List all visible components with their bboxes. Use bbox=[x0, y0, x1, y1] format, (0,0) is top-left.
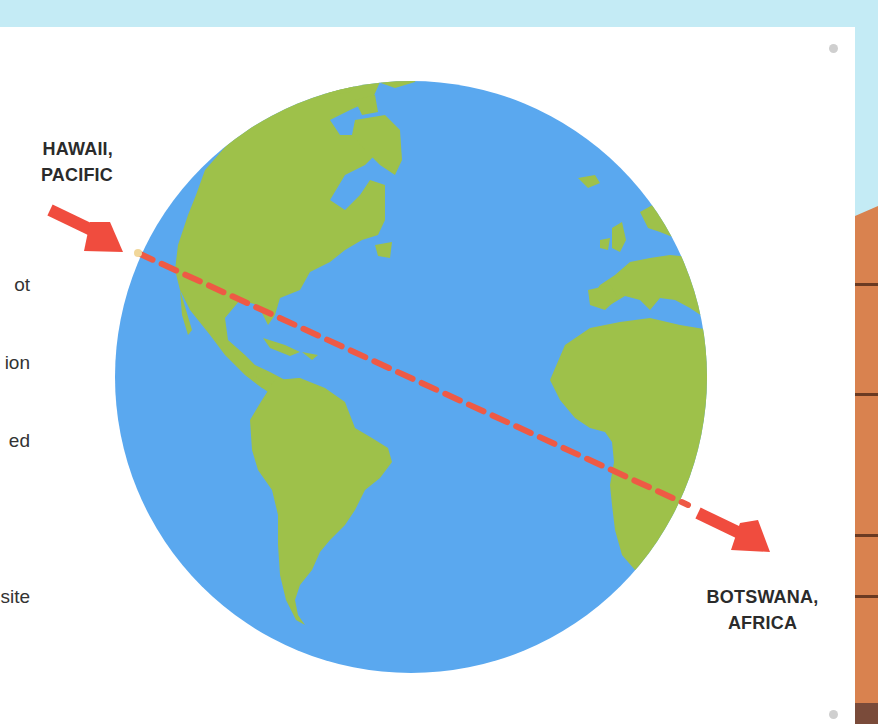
arrow-icon-hawaii bbox=[50, 210, 123, 252]
entry-point-marker bbox=[134, 249, 142, 257]
label-line: AFRICA bbox=[680, 610, 845, 636]
illustration-page: ot ion ed site bbox=[0, 0, 878, 724]
arrow-icon-botswana bbox=[698, 513, 770, 552]
label-hawaii-pacific: HAWAII, PACIFIC bbox=[0, 136, 113, 188]
label-botswana-africa: BOTSWANA, AFRICA bbox=[680, 584, 845, 636]
label-line: PACIFIC bbox=[0, 162, 113, 188]
label-line: BOTSWANA, bbox=[680, 584, 845, 610]
label-line: HAWAII, bbox=[0, 136, 113, 162]
